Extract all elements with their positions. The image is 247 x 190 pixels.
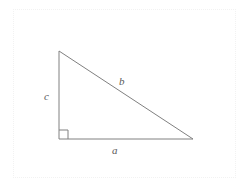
right-triangle-graphic: [0, 0, 247, 190]
label-side-c: c: [44, 91, 49, 102]
figure-canvas: c b a: [0, 0, 247, 190]
side-b-hypotenuse: [59, 51, 193, 139]
label-side-b: b: [119, 76, 125, 87]
right-angle-marker-icon: [59, 130, 68, 139]
label-side-a: a: [112, 145, 118, 156]
